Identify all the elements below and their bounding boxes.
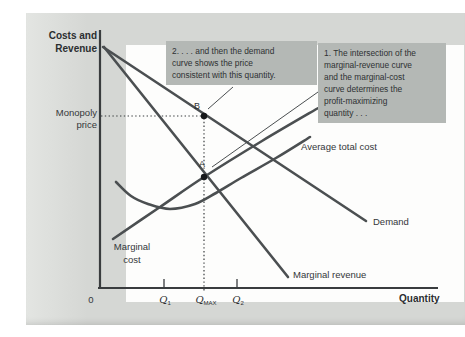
callout-box-2: 2. . . . and then the demand curve shows…: [166, 41, 317, 85]
callout-box-1: 1. The intersection of the marginal-reve…: [318, 43, 446, 123]
callout-2-pointer: [208, 87, 233, 109]
origin-tick-label: 0: [86, 294, 96, 306]
callout-1-line: marginal-revenue curve: [324, 59, 440, 71]
callout-1-line: profit-maximizing: [324, 95, 440, 107]
callout-2-line: consistent with this quantity.: [172, 69, 311, 81]
point-b-dot: [201, 113, 207, 119]
q1-tick-label: Q1: [154, 294, 176, 310]
monopoly-price-line1: Monopoly: [28, 107, 97, 119]
y-axis-label: Costs and Revenue: [28, 29, 97, 55]
qmax-tick-label: QMAX: [188, 294, 224, 310]
callout-1-line: quantity . . .: [324, 107, 440, 119]
q1-sub: 1: [167, 300, 170, 306]
q2-tick-label: Q2: [227, 294, 249, 310]
marginal-cost-label: Marginal cost: [107, 241, 157, 266]
qmax-base: Q: [195, 294, 203, 305]
screenshot-frame: Costs and Revenue Quantity Monopoly pric…: [0, 0, 465, 337]
marginal-cost-label-line1: Marginal: [107, 241, 157, 254]
x-axis-label: Quantity: [399, 293, 440, 305]
y-axis-label-line2: Revenue: [28, 42, 97, 55]
callout-1-line: curve determines the: [324, 83, 440, 95]
point-a-dot: [201, 174, 207, 180]
monopoly-price-label: Monopoly price: [28, 107, 97, 130]
callout-1-line: 1. The intersection of the: [324, 47, 440, 59]
callout-2-line: 2. . . . and then the demand: [172, 45, 311, 57]
marginal-cost-label-line2: cost: [107, 254, 157, 267]
point-b-label: B: [194, 101, 200, 113]
point-a-label: A: [199, 159, 205, 171]
q2-sub: 2: [240, 300, 243, 306]
marginal-cost-curve: [113, 107, 320, 239]
demand-label: Demand: [373, 216, 409, 228]
monopoly-price-line2: price: [28, 119, 97, 131]
average-total-cost-curve: [116, 137, 310, 209]
average-total-cost-label: Average total cost: [301, 141, 377, 153]
qmax-sub: MAX: [204, 300, 217, 306]
marginal-revenue-label: Marginal revenue: [293, 269, 366, 281]
callout-2-line: curve shows the price: [172, 57, 311, 69]
callout-1-line: and the marginal-cost: [324, 71, 440, 83]
y-axis-label-line1: Costs and: [28, 29, 97, 42]
